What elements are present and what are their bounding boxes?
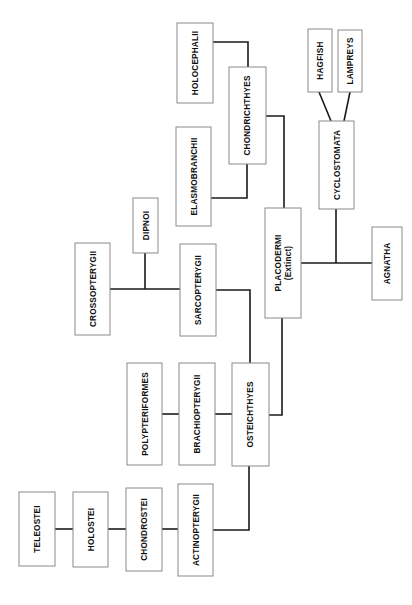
node-label: TELEOSTEI [33, 505, 42, 552]
edge-holocephalii-chondrichthyes [213, 42, 248, 67]
node-sublabel: (Extinct) [284, 246, 293, 281]
node-label: SARCOPTERYGII [194, 255, 203, 325]
edge-lampreys-cyclostomata [344, 92, 350, 121]
node-hagfish: HAGFISH [308, 29, 332, 92]
node-sarcopterygii: SARCOPTERYGII [180, 244, 216, 336]
node-label: ELASMOBRANCHII [190, 138, 199, 216]
edge-sarcopterygii-osteichthyes [216, 290, 250, 363]
edge-hagfish-cyclostomata [319, 92, 331, 121]
edge-actinopterygii-osteichthyes [213, 466, 249, 530]
node-label: LAMPREYS [346, 37, 355, 84]
node-holocephalii: HOLOCEPHALII [177, 23, 213, 103]
node-label: CHONDROSTEI [140, 498, 149, 561]
node-teleostei: TELEOSTEI [19, 492, 55, 566]
node-actinopterygii: ACTINOPTERYGII [178, 484, 213, 576]
node-placodermi: PLACODERMI (Extinct) [265, 208, 301, 318]
node-osteichthyes: OSTEICHTHYES [232, 363, 269, 466]
node-elasmobranchii: ELASMOBRANCHII [176, 127, 211, 226]
node-label: OSTEICHTHYES [246, 381, 255, 447]
edge-chondrichthyes-placodermi [266, 116, 284, 208]
node-lampreys: LAMPREYS [338, 30, 362, 92]
node-agnatha: AGNATHA [372, 227, 402, 300]
node-label: HAGFISH [316, 41, 325, 79]
node-label: HOLOSTEI [87, 508, 96, 551]
node-polypteriformes: POLYPTERIFORMES [127, 363, 162, 465]
node-brachiopterygii: BRACHIOPTERYGII [179, 363, 215, 465]
node-label: POLYPTERIFORMES [141, 372, 150, 456]
phylogeny-diagram: HOLOCEPHALII CHONDRICHTHYES ELASMOBRANCH… [0, 0, 412, 605]
edge-placodermi-osteichthyes [269, 318, 282, 415]
node-label: AGNATHA [383, 243, 392, 285]
node-label: ACTINOPTERYGII [192, 494, 201, 566]
node-label: CROSSOPTERYGII [89, 251, 98, 327]
edge-elasmobranchii-chondrichthyes [211, 164, 247, 198]
node-label: BRACHIOPTERYGII [193, 374, 202, 453]
node-crossopterygii: CROSSOPTERYGII [75, 243, 110, 335]
node-dipnoi: DIPNOI [133, 198, 158, 253]
node-chondrostei: CHONDROSTEI [126, 488, 162, 571]
nodes: HOLOCEPHALII CHONDRICHTHYES ELASMOBRANCH… [19, 23, 402, 576]
node-label: DIPNOI [142, 211, 151, 240]
node-label: CHONDRICHTHYES [243, 75, 252, 155]
node-holostei: HOLOSTEI [73, 492, 108, 567]
node-chondrichthyes: CHONDRICHTHYES [229, 67, 266, 164]
node-label: PLACODERMI [274, 234, 283, 291]
node-label: CYCLOSTOMATA [333, 130, 342, 200]
node-cyclostomata: CYCLOSTOMATA [319, 121, 354, 209]
node-label: HOLOCEPHALII [191, 31, 200, 95]
